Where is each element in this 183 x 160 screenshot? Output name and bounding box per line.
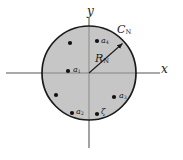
point-label-a4: a4 <box>101 37 109 46</box>
contour-label-cn-subscript: N <box>125 28 131 36</box>
contour-label-cn: CN <box>117 24 131 36</box>
radius-label-rn-subscript: N <box>103 57 109 65</box>
x-axis-label: x <box>161 63 168 75</box>
point-label-a1-subscript: 1 <box>78 69 81 74</box>
radius-label-rn: RN <box>95 53 109 65</box>
y-axis-label: y <box>87 5 94 17</box>
complex-plane-figure: y x CN RN a4 a1 a2 a3 ζ <box>0 0 183 160</box>
point-marker-a2 <box>70 111 74 115</box>
point-label-a3-subscript: 3 <box>124 95 127 100</box>
point-label-a3: a3 <box>119 92 127 101</box>
figure-canvas <box>0 0 183 160</box>
point-label-a4-subscript: 4 <box>106 40 109 45</box>
point-marker-unlabeled-2 <box>54 93 58 97</box>
point-marker-zeta <box>95 112 99 116</box>
point-marker-a4 <box>95 39 99 43</box>
point-label-a1: a1 <box>73 66 81 75</box>
point-label-a2: a2 <box>76 108 84 117</box>
point-marker-a3 <box>112 95 116 99</box>
point-marker-unlabeled-1 <box>68 41 72 45</box>
point-label-zeta: ζ <box>101 108 105 116</box>
point-marker-a1 <box>66 69 70 73</box>
point-label-a2-subscript: 2 <box>81 111 84 116</box>
